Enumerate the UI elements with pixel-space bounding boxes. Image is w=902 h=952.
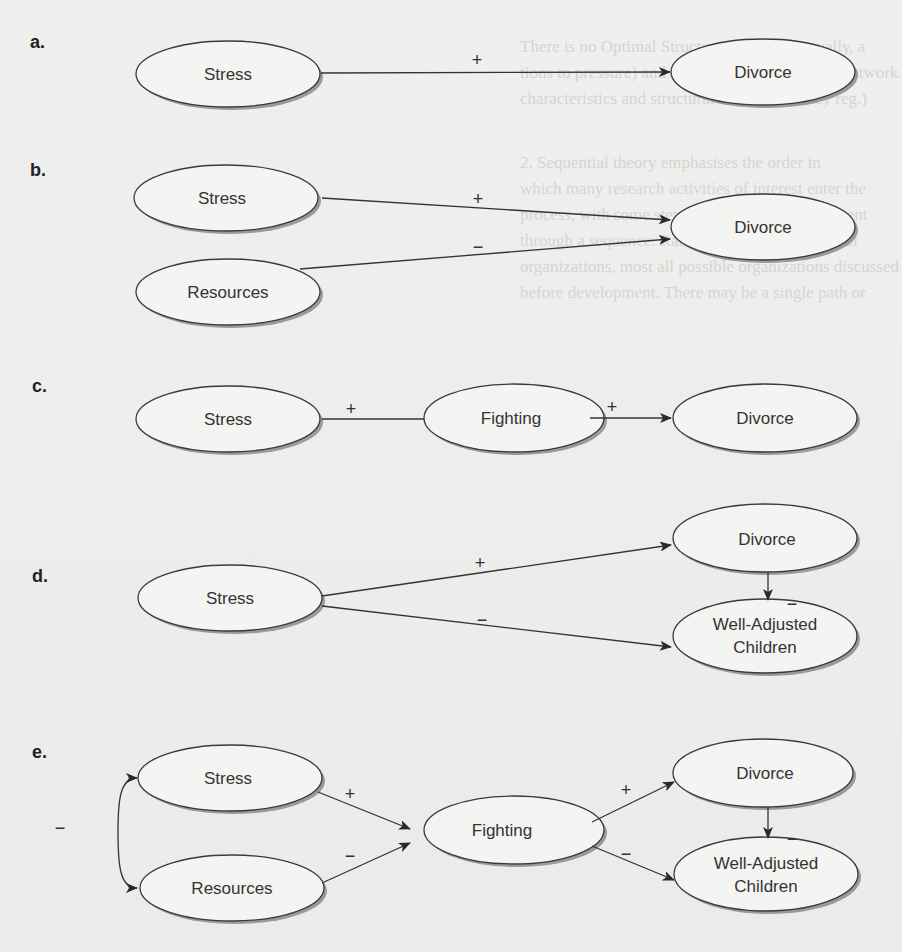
sign-plus: + [472, 50, 483, 70]
node-divorce: Divorce [673, 504, 860, 575]
node-label: Divorce [738, 530, 796, 549]
node-well-adjusted-children: Well-Adjusted Children [674, 837, 861, 914]
node-label: Fighting [472, 821, 532, 840]
node-stress: Stress [136, 386, 323, 455]
panel-label-e: e. [32, 742, 47, 762]
node-label: Divorce [734, 218, 792, 237]
edge-arrow [322, 843, 410, 883]
node-label: Stress [204, 769, 252, 788]
node-resources: Resources [140, 855, 327, 924]
sign-minus: − [55, 818, 66, 838]
sign-minus: − [477, 610, 488, 630]
sign-minus: − [787, 594, 798, 614]
node-label: Children [733, 638, 796, 657]
panel-c: c. Stress Fighting Divorce + + [32, 376, 860, 455]
node-label: Stress [206, 589, 254, 608]
sign-minus: − [787, 829, 798, 849]
node-label: Stress [204, 410, 252, 429]
panel-label-c: c. [32, 376, 47, 396]
node-divorce: Divorce [671, 39, 858, 108]
node-resources: Resources [136, 259, 323, 328]
panel-d: d. Stress Divorce Well-Adjusted Children… [32, 504, 860, 676]
scanned-page: There is no Optimal Structure. Because, … [0, 0, 902, 952]
sign-minus: − [345, 846, 356, 866]
sign-plus: + [473, 189, 484, 209]
node-label: Divorce [736, 409, 794, 428]
panel-b: b. Stress Resources Divorce + − [30, 160, 858, 328]
node-stress: Stress [138, 745, 325, 814]
panel-label-b: b. [30, 160, 46, 180]
sign-plus: + [346, 399, 357, 419]
edge-curve-arrow [118, 832, 137, 888]
node-divorce: Divorce [671, 194, 858, 263]
node-label: Resources [187, 283, 268, 302]
node-label: Stress [198, 189, 246, 208]
node-stress: Stress [136, 41, 323, 110]
node-label: Well-Adjusted [714, 854, 819, 873]
edge-arrow [321, 72, 670, 73]
node-fighting: Fighting [424, 796, 607, 867]
node-fighting: Fighting [424, 384, 607, 455]
node-label: Fighting [481, 409, 541, 428]
panel-e: e. Stress Resources Fighting Divorce [32, 739, 861, 924]
edge-arrow [592, 782, 674, 822]
sign-plus: + [475, 553, 486, 573]
node-stress: Stress [134, 165, 321, 234]
node-label: Resources [191, 879, 272, 898]
node-divorce: Divorce [673, 739, 856, 810]
edge-arrow [322, 545, 671, 596]
sign-plus: + [607, 397, 618, 417]
node-stress: Stress [138, 565, 325, 634]
sign-minus: − [473, 237, 484, 257]
node-label: Children [734, 877, 797, 896]
node-label: Divorce [736, 764, 794, 783]
sign-plus: + [345, 784, 356, 804]
edge-arrow [300, 239, 670, 269]
edge-curve-arrow [118, 778, 137, 832]
edge-arrow [322, 606, 671, 647]
node-label: Stress [204, 65, 252, 84]
panel-a: a. Stress Divorce + [30, 32, 858, 110]
node-label: Divorce [734, 63, 792, 82]
edge-arrow [322, 198, 670, 220]
sign-plus: + [621, 780, 632, 800]
node-well-adjusted-children: Well-Adjusted Children [673, 599, 860, 676]
panel-label-d: d. [32, 566, 48, 586]
node-divorce: Divorce [673, 384, 860, 455]
edge-arrow [318, 792, 410, 829]
sign-minus: − [621, 844, 632, 864]
panel-label-a: a. [30, 32, 45, 52]
node-label: Well-Adjusted [713, 615, 818, 634]
causal-diagram: a. Stress Divorce + b. Stress [0, 0, 902, 952]
edge-arrow [592, 846, 674, 880]
